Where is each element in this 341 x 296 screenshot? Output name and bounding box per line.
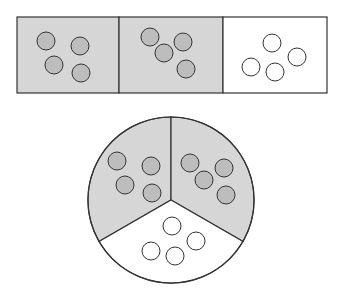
- counter-empty: [163, 217, 181, 235]
- bar-part-3: [223, 17, 327, 93]
- circle-model: [88, 117, 254, 283]
- counter-empty: [142, 242, 160, 260]
- counter-shaded: [143, 184, 161, 202]
- counter-empty: [263, 34, 281, 52]
- counter-shaded: [45, 56, 63, 74]
- counter-shaded: [217, 186, 235, 204]
- counter-shaded: [155, 44, 173, 62]
- counter-shaded: [37, 32, 55, 50]
- bar-model: [17, 17, 327, 93]
- counter-empty: [266, 63, 284, 81]
- fraction-diagram: [0, 0, 341, 296]
- counter-shaded: [108, 152, 126, 170]
- counter-empty: [187, 232, 205, 250]
- bar-part-1: [17, 17, 119, 93]
- counter-shaded: [71, 37, 89, 55]
- counter-empty: [166, 247, 184, 265]
- counter-shaded: [116, 176, 134, 194]
- counter-shaded: [142, 157, 160, 175]
- counter-shaded: [215, 159, 233, 177]
- counter-shaded: [174, 33, 192, 51]
- counter-shaded: [181, 154, 199, 172]
- counter-shaded: [195, 171, 213, 189]
- counter-shaded: [72, 64, 90, 82]
- counter-shaded: [177, 60, 195, 78]
- counter-empty: [242, 58, 260, 76]
- counter-shaded: [141, 28, 159, 46]
- counter-empty: [288, 48, 306, 66]
